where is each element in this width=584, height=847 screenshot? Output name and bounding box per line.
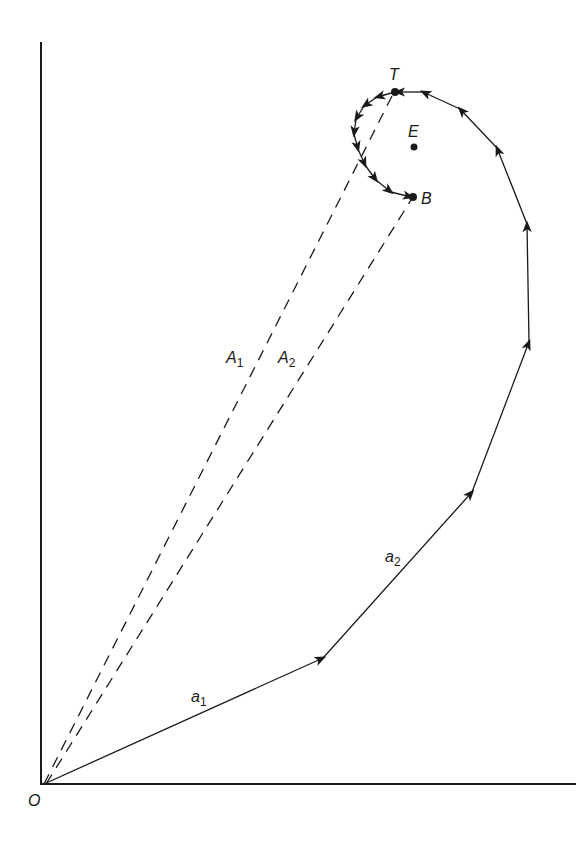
vector-a3 (472, 342, 529, 492)
point-B (409, 193, 417, 201)
vector-a4 (527, 224, 529, 342)
inner-spiral-chain (354, 92, 411, 197)
point-E (411, 144, 418, 151)
resultant-A1 (44, 96, 392, 784)
vector-a1 (44, 658, 323, 784)
label-a1: a1 (191, 688, 207, 709)
vector-a5 (497, 148, 527, 224)
resultant-A2 (46, 200, 411, 784)
label-O: O (28, 792, 40, 809)
label-a2: a2 (385, 548, 401, 569)
outer-vector-chain (44, 92, 529, 784)
label-A2: A2 (277, 349, 296, 370)
point-T (391, 88, 399, 96)
vector-a2 (323, 492, 472, 658)
dashed-resultants (44, 96, 411, 784)
vector-spiral-diagram: O T E B A1 A2 a1 a2 (0, 0, 584, 847)
vector-a6 (460, 109, 497, 148)
label-A1: A1 (225, 349, 244, 370)
label-E: E (408, 123, 419, 140)
label-T: T (389, 66, 400, 83)
vector-a7 (423, 92, 460, 109)
label-B: B (421, 190, 432, 207)
